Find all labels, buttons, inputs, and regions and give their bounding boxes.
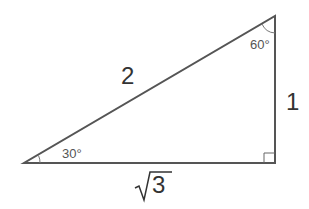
right-angle-marker bbox=[264, 153, 275, 163]
triangle-diagram: 2 1 3 30° 60° bbox=[0, 0, 309, 209]
angle-30-label: 30° bbox=[62, 147, 82, 160]
base-radicand-label: 3 bbox=[152, 173, 165, 197]
angle-arc-30 bbox=[39, 156, 41, 164]
angle-60-label: 60° bbox=[250, 38, 270, 51]
vertical-side-label: 1 bbox=[286, 90, 299, 114]
angle-arc-60 bbox=[262, 24, 275, 33]
hypotenuse-label: 2 bbox=[121, 64, 134, 88]
right-triangle bbox=[24, 16, 275, 163]
